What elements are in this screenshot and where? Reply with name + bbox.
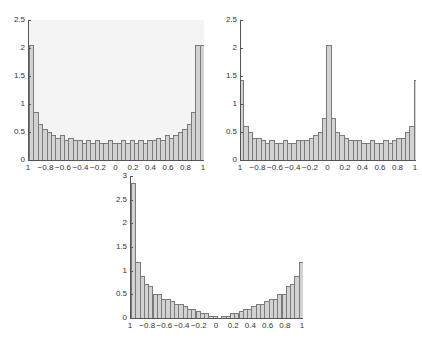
histogram-bar — [414, 80, 416, 160]
y-tick-label: 2.5 — [107, 196, 127, 204]
y-tick-label: 1 — [217, 100, 237, 108]
y-tick-mark — [29, 76, 31, 77]
y-tick-mark — [241, 20, 243, 21]
y-tick-mark — [131, 223, 133, 224]
y-tick-mark — [241, 160, 243, 161]
histogram-bar — [200, 45, 204, 160]
plot-area — [28, 20, 204, 161]
y-tick-label: 0 — [217, 156, 237, 164]
y-tick-mark — [131, 318, 133, 319]
y-tick-mark — [241, 104, 243, 105]
y-tick-label: 1.5 — [107, 243, 127, 251]
y-tick-mark — [241, 132, 243, 133]
y-tick-label: 2.5 — [5, 16, 25, 24]
y-tick-label: 2 — [107, 219, 127, 227]
y-tick-label: 1.5 — [217, 72, 237, 80]
histogram-bar — [213, 316, 218, 318]
x-tick-label: 1 — [191, 164, 215, 172]
y-tick-label: 0.5 — [107, 290, 127, 298]
y-tick-mark — [241, 76, 243, 77]
y-tick-mark — [131, 200, 133, 201]
y-tick-mark — [29, 160, 31, 161]
y-tick-label: 2 — [5, 44, 25, 52]
y-tick-label: 0 — [107, 314, 127, 322]
y-tick-mark — [131, 271, 133, 272]
y-tick-mark — [29, 20, 31, 21]
plot-area — [130, 176, 303, 319]
x-tick-label: 1 — [403, 164, 422, 172]
y-tick-label: 0 — [5, 156, 25, 164]
y-tick-label: 3 — [107, 172, 127, 180]
y-tick-mark — [29, 104, 31, 105]
y-tick-label: 2 — [217, 44, 237, 52]
y-tick-mark — [29, 132, 31, 133]
y-tick-label: 2.5 — [217, 16, 237, 24]
y-tick-label: 1 — [5, 100, 25, 108]
x-tick-label: 1 — [290, 322, 314, 330]
y-tick-label: 0.5 — [5, 128, 25, 136]
y-tick-mark — [131, 294, 133, 295]
y-tick-label: 1.5 — [5, 72, 25, 80]
y-tick-label: 1 — [107, 267, 127, 275]
y-tick-mark — [241, 48, 243, 49]
plot-area — [240, 20, 416, 161]
y-tick-mark — [131, 247, 133, 248]
y-tick-mark — [131, 176, 133, 177]
y-tick-label: 0.5 — [217, 128, 237, 136]
cropped-caption-fragment — [290, 0, 380, 2]
y-tick-mark — [29, 48, 31, 49]
